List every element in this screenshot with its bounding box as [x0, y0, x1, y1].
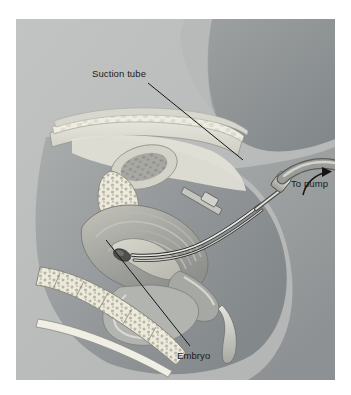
label-to-pump: To pump [291, 178, 328, 189]
illustration-panel [16, 19, 335, 380]
label-suction-tube: Suction tube [92, 68, 146, 79]
anatomy-illustration [16, 19, 335, 380]
label-embryo: Embryo [177, 350, 210, 361]
figure-page: Suction tube To pump Embryo [0, 0, 351, 395]
